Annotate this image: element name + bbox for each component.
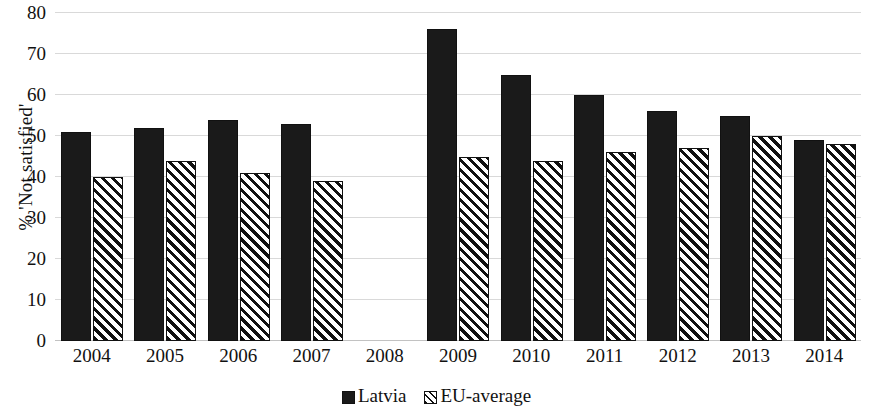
bar-eu-average-2014 xyxy=(826,144,856,341)
legend-entry-latvia[interactable]: Latvia xyxy=(342,385,407,407)
plot-area xyxy=(55,13,861,341)
bar-eu-average-2012 xyxy=(679,148,709,341)
hatched-square-icon xyxy=(424,391,437,404)
bar-latvia-2004 xyxy=(61,132,91,341)
bar-group-2004 xyxy=(55,13,128,341)
x-axis-tick-labels: 2004200520062007200820092010201120122013… xyxy=(55,345,861,371)
bar-latvia-2013 xyxy=(720,116,750,342)
bar-group-2013 xyxy=(714,13,787,341)
chart-legend: LatviaEU-average xyxy=(0,385,873,407)
legend-label: Latvia xyxy=(358,385,407,407)
bar-group-2011 xyxy=(568,13,641,341)
x-tick-label-2011: 2011 xyxy=(568,345,642,367)
x-tick-label-2007: 2007 xyxy=(274,345,348,367)
bar-group-2012 xyxy=(641,13,714,341)
y-tick-label-50: 50 xyxy=(2,126,46,145)
y-tick-label-80: 80 xyxy=(2,3,46,22)
bar-series-layer xyxy=(55,13,861,341)
x-tick-label-2005: 2005 xyxy=(128,345,202,367)
bar-eu-average-2013 xyxy=(752,136,782,341)
x-tick-label-2010: 2010 xyxy=(494,345,568,367)
bar-group-2014 xyxy=(788,13,861,341)
bar-latvia-2012 xyxy=(647,111,677,341)
y-tick-label-70: 70 xyxy=(2,44,46,63)
bar-eu-average-2006 xyxy=(240,173,270,341)
bar-eu-average-2011 xyxy=(606,152,636,341)
bar-eu-average-2009 xyxy=(459,157,489,342)
y-tick-label-10: 10 xyxy=(2,290,46,309)
bar-group-2008 xyxy=(348,13,421,341)
bar-chart-figure: % 'Not satisfied' 01020304050607080 2004… xyxy=(0,0,873,415)
bar-eu-average-2010 xyxy=(533,161,563,341)
x-tick-label-2006: 2006 xyxy=(201,345,275,367)
bar-eu-average-2005 xyxy=(166,161,196,341)
bar-latvia-2011 xyxy=(574,95,604,341)
legend-label: EU-average xyxy=(440,385,531,407)
bar-latvia-2006 xyxy=(208,120,238,341)
x-tick-label-2012: 2012 xyxy=(641,345,715,367)
bar-latvia-2014 xyxy=(794,140,824,341)
y-tick-label-40: 40 xyxy=(2,167,46,186)
solid-square-icon xyxy=(342,391,355,404)
x-tick-label-2013: 2013 xyxy=(714,345,788,367)
bar-group-2009 xyxy=(421,13,494,341)
y-tick-label-0: 0 xyxy=(2,331,46,350)
bar-latvia-2007 xyxy=(281,124,311,341)
bar-group-2005 xyxy=(128,13,201,341)
bar-eu-average-2004 xyxy=(93,177,123,341)
bar-group-2010 xyxy=(495,13,568,341)
bar-latvia-2010 xyxy=(501,75,531,342)
x-tick-label-2014: 2014 xyxy=(787,345,861,367)
bar-latvia-2005 xyxy=(134,128,164,341)
bar-latvia-2009 xyxy=(427,29,457,341)
x-tick-label-2008: 2008 xyxy=(348,345,422,367)
y-tick-label-60: 60 xyxy=(2,85,46,104)
y-tick-label-30: 30 xyxy=(2,208,46,227)
bar-eu-average-2007 xyxy=(313,181,343,341)
bar-group-2006 xyxy=(202,13,275,341)
x-tick-label-2009: 2009 xyxy=(421,345,495,367)
x-tick-label-2004: 2004 xyxy=(55,345,129,367)
legend-entry-eu-average[interactable]: EU-average xyxy=(424,385,531,407)
bar-group-2007 xyxy=(275,13,348,341)
y-tick-label-20: 20 xyxy=(2,249,46,268)
